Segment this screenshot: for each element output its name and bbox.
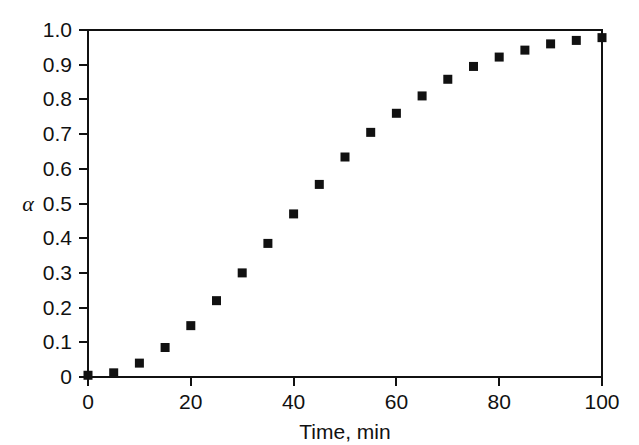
data-point — [392, 109, 401, 118]
data-point — [598, 33, 607, 42]
data-point — [315, 180, 324, 189]
plot-frame — [88, 30, 602, 377]
data-point — [469, 62, 478, 71]
x-tick-label-20: 20 — [179, 390, 202, 413]
y-axis-ticks — [79, 30, 88, 377]
y-tick-label-0.6: 0.6 — [43, 157, 72, 180]
x-axis-tick-labels: 020406080100 — [82, 390, 619, 413]
data-point — [289, 209, 298, 218]
data-point — [546, 39, 555, 48]
x-tick-label-80: 80 — [488, 390, 511, 413]
data-point — [418, 91, 427, 100]
data-point — [186, 321, 195, 330]
y-tick-label-0: 0 — [60, 365, 72, 388]
data-point — [443, 75, 452, 84]
data-point — [366, 128, 375, 137]
y-tick-label-0.7: 0.7 — [43, 122, 72, 145]
data-point — [109, 368, 118, 377]
data-point — [161, 343, 170, 352]
data-point — [135, 359, 144, 368]
x-tick-label-60: 60 — [385, 390, 408, 413]
plot-area: 020406080100 00.10.20.30.40.50.60.70.80.… — [0, 0, 639, 445]
data-point — [572, 36, 581, 45]
y-tick-label-0.9: 0.9 — [43, 53, 72, 76]
x-tick-label-40: 40 — [282, 390, 305, 413]
data-point — [212, 296, 221, 305]
y-tick-label-0.3: 0.3 — [43, 261, 72, 284]
y-tick-label-0.8: 0.8 — [43, 87, 72, 110]
data-point — [84, 371, 93, 380]
y-tick-label-1: 1.0 — [43, 18, 72, 41]
data-point — [341, 153, 350, 162]
y-tick-label-0.1: 0.1 — [43, 330, 72, 353]
data-point — [495, 53, 504, 62]
y-tick-label-0.5: 0.5 — [43, 192, 72, 215]
x-axis-title: Time, min — [299, 420, 390, 443]
x-axis-ticks — [88, 377, 602, 386]
y-axis-tick-labels: 00.10.20.30.40.50.60.70.80.91.0 — [43, 18, 73, 388]
data-point-markers — [84, 33, 607, 380]
y-tick-label-0.2: 0.2 — [43, 296, 72, 319]
y-tick-label-0.4: 0.4 — [43, 226, 73, 249]
x-tick-label-100: 100 — [584, 390, 619, 413]
y-axis-title: α — [22, 191, 34, 216]
data-point — [263, 239, 272, 248]
data-point — [238, 268, 247, 277]
data-point — [520, 46, 529, 55]
x-tick-label-0: 0 — [82, 390, 94, 413]
chart-figure: 020406080100 00.10.20.30.40.50.60.70.80.… — [0, 0, 639, 445]
